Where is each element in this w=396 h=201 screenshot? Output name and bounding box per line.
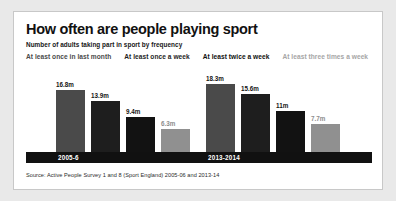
- bar: [311, 124, 340, 152]
- bar-value-label: 11m: [276, 103, 305, 109]
- plot-area: 16.8m 13.9m 9.4m 6.3m 18.3m: [26, 68, 372, 152]
- bar-value-label: 6.3m: [161, 121, 190, 127]
- axis-band: 2005-6 2013-2014: [26, 152, 372, 163]
- bar-value-label: 9.4m: [126, 109, 155, 115]
- bar: [241, 94, 270, 152]
- legend-item-series-0: At least once in last month: [26, 53, 111, 60]
- legend-item-series-2: At least twice a week: [203, 53, 270, 60]
- bar-value-label: 18.3m: [206, 76, 235, 82]
- chart-subtitle: Number of adults taking part in sport by…: [26, 41, 182, 48]
- bar-slot: 9.4m: [126, 68, 155, 152]
- bar: [276, 111, 305, 152]
- bar-group-2013-2014: 18.3m 15.6m 11m 7.7m: [206, 68, 340, 152]
- source-note: Source: Active People Survey 1 and 8 (Sp…: [26, 172, 219, 178]
- bar-slot: 11m: [276, 68, 305, 152]
- legend-item-series-1: At least once a week: [124, 53, 190, 60]
- legend-item-series-3: At least three times a week: [282, 53, 368, 60]
- bar: [56, 90, 85, 152]
- bar-slot: 7.7m: [311, 68, 340, 152]
- bar: [91, 101, 120, 152]
- bar-group-2005-6: 16.8m 13.9m 9.4m 6.3m: [56, 68, 190, 152]
- bar-value-label: 16.8m: [56, 82, 85, 88]
- bar-slot: 18.3m: [206, 68, 235, 152]
- bar: [206, 84, 235, 152]
- bar-value-label: 15.6m: [241, 86, 270, 92]
- bar-slot: 6.3m: [161, 68, 190, 152]
- legend: At least once in last month At least onc…: [26, 53, 368, 60]
- axis-tick-label: 2013-2014: [208, 154, 240, 161]
- chart-card: How often are people playing sport Numbe…: [13, 11, 383, 190]
- bar-slot: 16.8m: [56, 68, 85, 152]
- bar-slot: 15.6m: [241, 68, 270, 152]
- bar-slot: 13.9m: [91, 68, 120, 152]
- axis-tick-label: 2005-6: [58, 154, 79, 161]
- bar: [126, 117, 155, 152]
- chart-frame: How often are people playing sport Numbe…: [0, 0, 396, 201]
- page-title: How often are people playing sport: [26, 21, 258, 37]
- bar: [161, 129, 190, 152]
- bar-value-label: 7.7m: [311, 116, 340, 122]
- bar-value-label: 13.9m: [91, 93, 120, 99]
